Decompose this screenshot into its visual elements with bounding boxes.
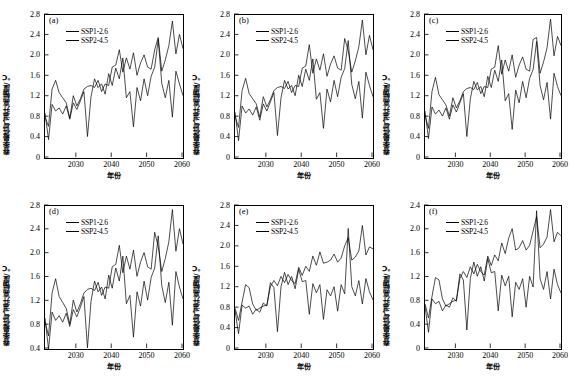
legend: SSP1-2.6SSP2-4.5 bbox=[256, 27, 298, 45]
x-axis-tick-label: 2050 bbox=[511, 351, 539, 360]
legend: SSP1-2.6SSP2-4.5 bbox=[66, 218, 108, 236]
plot-area bbox=[424, 205, 562, 350]
legend-item-SSP2-4.5: SSP2-4.5 bbox=[256, 227, 298, 236]
legend-label: SSP1-2.6 bbox=[81, 27, 108, 36]
legend: SSP1-2.6SSP2-4.5 bbox=[256, 218, 298, 236]
x-axis-title: 年份 bbox=[44, 361, 184, 371]
legend-label: SSP2-4.5 bbox=[271, 227, 298, 236]
y-axis-tick-label: 1.2 bbox=[394, 272, 420, 281]
y-axis-tick-label: 0.4 bbox=[14, 344, 40, 353]
legend-item-SSP2-4.5: SSP2-4.5 bbox=[66, 227, 108, 236]
y-axis-tick-label: 1.2 bbox=[204, 91, 230, 100]
legend-item-SSP1-2.6: SSP1-2.6 bbox=[446, 27, 488, 36]
legend-line-swatch bbox=[66, 31, 79, 32]
legend-label: SSP2-4.5 bbox=[271, 36, 298, 45]
y-axis-tick-label: 0.4 bbox=[204, 132, 230, 141]
legend-item-SSP1-2.6: SSP1-2.6 bbox=[66, 27, 108, 36]
y-axis-tick-label: 0.8 bbox=[14, 112, 40, 121]
legend-label: SSP2-4.5 bbox=[461, 36, 488, 45]
legend-label: SSP1-2.6 bbox=[461, 27, 488, 36]
x-axis-tick-label: 2060 bbox=[168, 351, 196, 360]
x-axis-tick-label: 2050 bbox=[133, 160, 161, 169]
y-axis-tick-label: 1.6 bbox=[394, 248, 420, 257]
legend-item-SSP2-4.5: SSP2-4.5 bbox=[446, 36, 488, 45]
y-axis-tick-label: 1.6 bbox=[14, 71, 40, 80]
y-axis-tick-label: 0 bbox=[204, 344, 230, 353]
legend-line-swatch bbox=[446, 231, 459, 232]
y-axis-tick-label: 0 bbox=[204, 153, 230, 162]
panel-label: (d) bbox=[49, 207, 59, 216]
x-axis-tick-label: 2060 bbox=[546, 160, 573, 169]
x-axis-tick-label: 2060 bbox=[358, 351, 386, 360]
y-axis-tick-label: 1.2 bbox=[14, 91, 40, 100]
x-axis-tick-label: 2040 bbox=[476, 160, 504, 169]
y-axis-tick-label: 1.6 bbox=[204, 71, 230, 80]
x-axis-tick-label: 2050 bbox=[323, 160, 351, 169]
panel-label: (c) bbox=[429, 16, 438, 25]
x-axis-tick-label: 2030 bbox=[62, 160, 90, 169]
legend: SSP1-2.6SSP2-4.5 bbox=[446, 218, 488, 236]
legend-item-SSP2-4.5: SSP2-4.5 bbox=[66, 36, 108, 45]
y-axis-tick-label: 1.6 bbox=[204, 262, 230, 271]
x-axis-tick-label: 2060 bbox=[546, 351, 573, 360]
y-axis-tick-label: 0.8 bbox=[204, 112, 230, 121]
plot-area bbox=[234, 205, 374, 350]
legend-item-SSP1-2.6: SSP1-2.6 bbox=[256, 218, 298, 227]
y-axis-tick-label: 2.4 bbox=[394, 30, 420, 39]
y-axis-tick-label: 0.4 bbox=[394, 320, 420, 329]
legend-line-swatch bbox=[446, 31, 459, 32]
plot-area bbox=[424, 14, 562, 159]
y-axis-tick-label: 1.2 bbox=[204, 282, 230, 291]
y-axis-tick-label: 2.4 bbox=[394, 201, 420, 210]
y-axis-tick-label: 2.8 bbox=[14, 10, 40, 19]
x-axis-tick-label: 2040 bbox=[476, 351, 504, 360]
panel-label: (a) bbox=[49, 16, 58, 25]
x-axis-title: 年份 bbox=[44, 170, 184, 180]
x-axis-tick-label: 2060 bbox=[358, 160, 386, 169]
legend-item-SSP1-2.6: SSP1-2.6 bbox=[66, 218, 108, 227]
plot-area bbox=[44, 14, 184, 159]
y-axis-tick-label: 0.4 bbox=[394, 132, 420, 141]
legend-item-SSP1-2.6: SSP1-2.6 bbox=[256, 27, 298, 36]
y-axis-tick-label: 2.8 bbox=[394, 10, 420, 19]
x-axis-title: 年份 bbox=[424, 170, 562, 180]
legend-item-SSP2-4.5: SSP2-4.5 bbox=[256, 36, 298, 45]
legend-label: SSP2-4.5 bbox=[81, 227, 108, 236]
x-axis-title: 年份 bbox=[424, 361, 562, 371]
y-axis-tick-label: 0.4 bbox=[204, 323, 230, 332]
y-axis-tick-label: 2.0 bbox=[14, 50, 40, 59]
y-axis-tick-label: 2.0 bbox=[394, 224, 420, 233]
y-axis-tick-label: 2.0 bbox=[14, 248, 40, 257]
y-axis-tick-label: 2.8 bbox=[204, 201, 230, 210]
legend-label: SSP1-2.6 bbox=[81, 218, 108, 227]
legend-line-swatch bbox=[66, 222, 79, 223]
y-axis-tick-label: 2.8 bbox=[204, 10, 230, 19]
x-axis-tick-label: 2030 bbox=[441, 351, 469, 360]
x-axis-tick-label: 2030 bbox=[252, 351, 280, 360]
y-axis-tick-label: 0 bbox=[394, 153, 420, 162]
y-axis-tick-label: 2.4 bbox=[14, 30, 40, 39]
legend-line-swatch bbox=[256, 222, 269, 223]
x-axis-tick-label: 2040 bbox=[287, 351, 315, 360]
y-axis-title: 春季最低气温升高幅度/℃ bbox=[192, 18, 202, 155]
y-axis-tick-label: 1.6 bbox=[14, 272, 40, 281]
x-axis-tick-label: 2050 bbox=[133, 351, 161, 360]
y-axis-title: 春季最低气温升高幅度/℃ bbox=[192, 209, 202, 346]
x-axis-tick-label: 2050 bbox=[511, 160, 539, 169]
y-axis-title: 春季最低气温升高幅度/℃ bbox=[2, 18, 12, 155]
x-axis-tick-label: 2030 bbox=[62, 351, 90, 360]
y-axis-tick-label: 2.0 bbox=[204, 241, 230, 250]
legend-label: SSP1-2.6 bbox=[271, 27, 298, 36]
series-line-SSP1-2.6 bbox=[425, 42, 561, 139]
x-axis-tick-label: 2060 bbox=[168, 160, 196, 169]
panel-label: (e) bbox=[239, 207, 248, 216]
series-line-SSP1-2.6 bbox=[45, 40, 183, 140]
series-line-SSP1-2.6 bbox=[45, 236, 183, 349]
plot-area bbox=[44, 205, 184, 350]
y-axis-tick-label: 2.0 bbox=[394, 50, 420, 59]
legend-line-swatch bbox=[256, 40, 269, 41]
y-axis-tick-label: 2.4 bbox=[14, 224, 40, 233]
x-axis-tick-label: 2030 bbox=[252, 160, 280, 169]
y-axis-title: 春季最低气温升高幅度/℃ bbox=[382, 18, 392, 155]
